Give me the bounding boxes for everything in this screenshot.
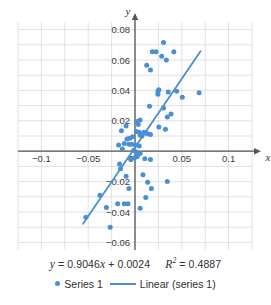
- data-point: [116, 143, 121, 148]
- legend-label-series: Series 1: [64, 278, 103, 290]
- y-tick-label: 0.06: [112, 55, 131, 66]
- r-squared-equals: =: [179, 258, 185, 270]
- y-tick-label: −0.06: [106, 237, 130, 248]
- legend-dot-icon: [55, 281, 60, 286]
- data-point: [138, 206, 143, 211]
- r-squared-exponent: 2: [172, 256, 176, 265]
- data-point: [140, 172, 145, 177]
- data-point: [124, 124, 129, 129]
- data-point: [148, 157, 153, 162]
- data-point: [120, 146, 125, 151]
- data-points: [83, 40, 201, 230]
- chart-legend: Series 1 Linear (series 1): [0, 278, 271, 290]
- axis-titles: yx: [125, 5, 271, 163]
- data-point: [166, 89, 171, 94]
- equation-slope: 0.9046: [67, 258, 100, 270]
- data-point: [136, 122, 141, 127]
- data-point: [115, 201, 120, 206]
- data-point: [126, 186, 131, 191]
- data-point: [145, 180, 150, 185]
- data-point: [165, 179, 170, 184]
- equation-intercept: + 0.0024: [108, 258, 150, 270]
- data-point: [117, 162, 122, 167]
- legend-label-trendline: Linear (series 1): [140, 278, 216, 290]
- data-point: [163, 127, 168, 132]
- chart-caption: y = 0.9046x + 0.0024 R2 = 0.4887 Series …: [0, 256, 271, 290]
- data-point: [140, 134, 145, 139]
- y-tick-label: 0.08: [112, 24, 131, 35]
- y-tick-label: −0.04: [106, 207, 130, 218]
- data-point: [143, 195, 148, 200]
- x-tick-label: −0.1: [32, 153, 51, 164]
- data-point: [161, 40, 166, 45]
- data-point: [97, 193, 102, 198]
- data-point: [155, 92, 160, 97]
- equation-equals: =: [58, 258, 64, 270]
- data-point: [149, 186, 154, 191]
- y-tick-label: 0.04: [112, 85, 131, 96]
- data-point: [142, 156, 147, 161]
- data-point: [144, 63, 149, 68]
- data-point: [161, 105, 166, 110]
- data-point: [197, 90, 202, 95]
- data-point: [159, 54, 164, 59]
- data-point: [174, 89, 179, 94]
- data-point: [128, 157, 133, 162]
- data-point: [118, 166, 123, 171]
- equation-x-symbol: x: [100, 258, 105, 270]
- data-point: [165, 115, 170, 120]
- equation-y-symbol: y: [50, 258, 55, 270]
- data-point: [148, 67, 153, 72]
- legend-entry-series: Series 1: [55, 278, 103, 290]
- data-point: [124, 174, 129, 179]
- data-point: [180, 95, 185, 100]
- data-point: [164, 58, 169, 63]
- data-point: [171, 49, 176, 54]
- data-point: [108, 225, 113, 230]
- data-point: [147, 104, 152, 109]
- data-point: [83, 215, 88, 220]
- data-point: [154, 49, 159, 54]
- legend-entry-trendline: Linear (series 1): [110, 278, 216, 290]
- data-point: [125, 137, 130, 142]
- data-point: [122, 141, 127, 146]
- legend-line-icon: [110, 283, 136, 285]
- regression-equation: y = 0.9046x + 0.0024 R2 = 0.4887: [0, 256, 271, 270]
- data-point: [119, 128, 124, 133]
- scatter-chart-figure: −0.1−0.050.050.100.080.060.040.02−0.02−0…: [0, 0, 271, 305]
- data-point: [104, 205, 109, 210]
- r-squared-value: 0.4887: [189, 258, 222, 270]
- x-axis-title: x: [265, 151, 271, 163]
- data-point: [148, 132, 153, 137]
- data-point: [125, 201, 130, 206]
- x-tick-label: 0.05: [173, 153, 192, 164]
- y-axis-title: y: [125, 5, 131, 17]
- data-point: [137, 143, 142, 148]
- x-tick-label: −0.05: [76, 153, 100, 164]
- data-point: [156, 124, 161, 129]
- x-tick-label: 0.1: [222, 153, 235, 164]
